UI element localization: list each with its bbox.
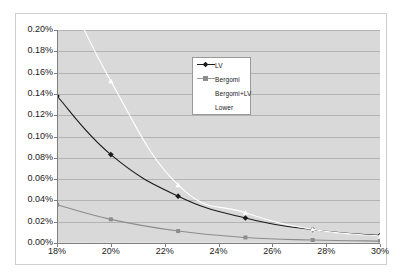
series-line-bergomi-lv bbox=[57, 0, 380, 236]
y-axis-line bbox=[57, 30, 58, 243]
data-point-marker bbox=[109, 217, 113, 221]
x-tick-label: 18% bbox=[37, 246, 77, 256]
legend-label-lower: Lower bbox=[215, 104, 233, 111]
legend-key-bergomi bbox=[197, 74, 215, 84]
series-line-bergomi bbox=[57, 205, 380, 241]
legend-key-lv bbox=[197, 60, 215, 70]
y-tick-mark bbox=[54, 137, 57, 138]
data-point-marker bbox=[243, 215, 249, 221]
x-tick-label: 28% bbox=[306, 246, 346, 256]
y-tick-label: 0.02% bbox=[5, 217, 53, 226]
legend-entry-lower: Lower bbox=[193, 100, 250, 114]
triangle-marker-icon bbox=[203, 90, 208, 95]
x-tick-label: 26% bbox=[252, 246, 292, 256]
x-tick-label: 24% bbox=[199, 246, 239, 256]
x-tick-mark bbox=[111, 244, 112, 247]
y-tick-label: 0.16% bbox=[5, 68, 53, 77]
legend-label-lv: LV bbox=[215, 62, 223, 69]
diamond-marker-icon bbox=[203, 62, 209, 68]
legend-label-bergomi-plus-lv: Bergomi+LV bbox=[215, 90, 251, 97]
y-axis-tick-labels: 0.20%0.18%0.16%0.14%0.12%0.10%0.08%0.06%… bbox=[0, 0, 53, 280]
legend-label-bergomi: Bergomi bbox=[215, 76, 240, 83]
y-tick-mark bbox=[54, 222, 57, 223]
y-tick-label: 0.12% bbox=[5, 110, 53, 119]
y-tick-mark bbox=[54, 30, 57, 31]
legend-key-lower bbox=[197, 102, 215, 112]
y-tick-mark bbox=[54, 94, 57, 95]
x-tick-label: 20% bbox=[91, 246, 131, 256]
legend-entry-bergomi: Bergomi bbox=[193, 72, 250, 86]
legend-key-bergomi-plus-lv bbox=[197, 88, 215, 98]
data-point-marker bbox=[311, 238, 315, 242]
y-tick-label: 0.20% bbox=[5, 25, 53, 34]
y-tick-label: 0.06% bbox=[5, 174, 53, 183]
data-point-marker bbox=[108, 79, 113, 84]
y-tick-mark bbox=[54, 51, 57, 52]
chart-container: 0.20%0.18%0.16%0.14%0.12%0.10%0.08%0.06%… bbox=[0, 0, 401, 280]
legend-entry-lv: LV bbox=[193, 58, 250, 72]
y-tick-mark bbox=[54, 179, 57, 180]
x-tick-label: 30% bbox=[360, 246, 400, 256]
x-tick-mark bbox=[326, 244, 327, 247]
data-point-marker bbox=[176, 229, 180, 233]
x-tick-label: 22% bbox=[145, 246, 185, 256]
y-tick-mark bbox=[54, 115, 57, 116]
y-tick-mark bbox=[54, 200, 57, 201]
legend-entry-bergomi-plus-lv: Bergomi+LV bbox=[193, 86, 250, 100]
y-tick-label: 0.10% bbox=[5, 132, 53, 141]
y-tick-label: 0.04% bbox=[5, 195, 53, 204]
x-tick-mark bbox=[380, 244, 381, 247]
series-line-lv bbox=[57, 96, 380, 236]
data-point-marker bbox=[175, 193, 181, 199]
y-tick-label: 0.14% bbox=[5, 89, 53, 98]
square-marker-icon bbox=[203, 76, 208, 81]
y-tick-label: 0.18% bbox=[5, 46, 53, 55]
data-point-marker bbox=[243, 235, 247, 239]
x-tick-mark bbox=[57, 244, 58, 247]
y-tick-mark bbox=[54, 158, 57, 159]
y-tick-mark bbox=[54, 73, 57, 74]
x-tick-mark bbox=[165, 244, 166, 247]
x-tick-mark bbox=[219, 244, 220, 247]
x-tick-mark bbox=[272, 244, 273, 247]
y-tick-label: 0.08% bbox=[5, 153, 53, 162]
chart-legend: LV Bergomi Bergomi+LV Lower bbox=[192, 57, 251, 115]
